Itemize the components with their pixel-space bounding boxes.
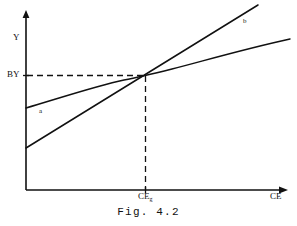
curve-b-label: b xyxy=(243,18,247,25)
curve-a-label: a xyxy=(39,108,42,115)
curve-b xyxy=(26,5,258,148)
y-axis xyxy=(23,10,30,190)
x-axis-label: CE xyxy=(270,192,282,201)
x-tick-label-subscript: g xyxy=(150,196,153,202)
x-tick-label-ceg: CEg xyxy=(138,192,153,201)
figure-4-2: Y BY CEg CE a b Fig. 4.2 xyxy=(0,0,297,226)
x-tick-label-base: CE xyxy=(138,191,150,201)
y-axis-label: Y xyxy=(13,33,20,42)
x-axis xyxy=(26,186,288,193)
y-tick-label-by: BY xyxy=(7,70,20,79)
curve-a xyxy=(26,39,290,108)
figure-caption: Fig. 4.2 xyxy=(0,206,297,218)
